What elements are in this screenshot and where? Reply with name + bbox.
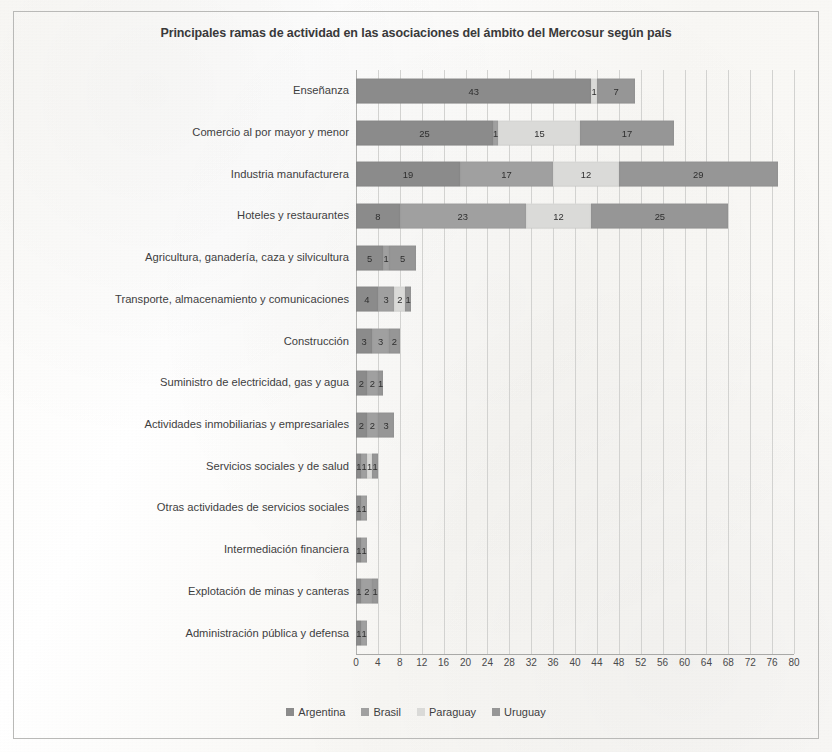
bar-segment[interactable]: 12 — [553, 162, 619, 187]
bar-value-label: 19 — [403, 169, 413, 180]
bar-value-label: 3 — [383, 294, 388, 305]
bar-segment[interactable]: 23 — [400, 203, 526, 228]
bar-segment[interactable]: 15 — [498, 120, 580, 145]
bar-segment[interactable]: 8 — [356, 203, 400, 228]
x-tick-label: 48 — [613, 657, 624, 668]
bar-value-label: 1 — [356, 544, 361, 555]
x-tick-label: 28 — [504, 657, 515, 668]
bar-value-label: 15 — [534, 127, 544, 138]
bar-segment[interactable]: 5 — [356, 245, 383, 270]
x-tick-label: 24 — [482, 657, 493, 668]
bar-value-label: 3 — [378, 336, 383, 347]
bar-segment[interactable]: 3 — [378, 412, 394, 437]
bar-segment[interactable]: 12 — [526, 203, 592, 228]
stacked-bar[interactable]: 515 — [356, 245, 416, 270]
bar-segment[interactable]: 2 — [367, 412, 378, 437]
bar-value-label: 1 — [367, 461, 372, 472]
bar-value-label: 3 — [383, 419, 388, 430]
category-label: Hoteles y restaurantes — [237, 210, 349, 221]
chart-row: Intermediación financiera11 — [356, 529, 794, 571]
bar-segment[interactable]: 19 — [356, 162, 460, 187]
bar-value-label: 2 — [397, 294, 402, 305]
stacked-bar[interactable]: 19171229 — [356, 162, 778, 187]
bar-segment[interactable]: 17 — [580, 120, 673, 145]
stacked-bar[interactable]: 8231225 — [356, 203, 728, 228]
bar-segment[interactable]: 2 — [356, 370, 367, 395]
bar-value-label: 1 — [356, 586, 361, 597]
stacked-bar[interactable]: 121 — [356, 579, 378, 604]
bar-segment[interactable]: 1 — [361, 495, 366, 520]
stacked-bar[interactable]: 221 — [356, 370, 383, 395]
bar-segment[interactable]: 2 — [394, 287, 405, 312]
bar-segment[interactable]: 5 — [389, 245, 416, 270]
chart-row: Servicios sociales y de salud1111 — [356, 445, 794, 487]
stacked-bar[interactable]: 11 — [356, 621, 367, 646]
bar-value-label: 4 — [364, 294, 369, 305]
legend-swatch-icon — [361, 708, 369, 716]
stacked-bar[interactable]: 11 — [356, 537, 367, 562]
x-tick-label: 76 — [767, 657, 778, 668]
legend-item[interactable]: Paraguay — [417, 706, 476, 718]
legend-swatch-icon — [286, 708, 294, 716]
x-tick-label: 60 — [679, 657, 690, 668]
bar-segment[interactable]: 1 — [361, 621, 366, 646]
bar-segment[interactable]: 2 — [367, 370, 378, 395]
stacked-bar[interactable]: 1111 — [356, 454, 378, 479]
legend-item[interactable]: Brasil — [361, 706, 401, 718]
bar-value-label: 1 — [373, 461, 378, 472]
bar-segment[interactable]: 25 — [591, 203, 728, 228]
chart-row: Transporte, almacenamiento y comunicacio… — [356, 279, 794, 321]
bar-segment[interactable]: 2 — [361, 579, 372, 604]
bar-value-label: 25 — [655, 210, 665, 221]
bar-segment[interactable]: 3 — [378, 287, 394, 312]
bar-value-label: 1 — [378, 377, 383, 388]
x-tick-label: 16 — [438, 657, 449, 668]
stacked-bar[interactable]: 11 — [356, 495, 367, 520]
bar-value-label: 12 — [581, 169, 591, 180]
stacked-bar[interactable]: 332 — [356, 329, 400, 354]
bar-segment[interactable]: 1 — [361, 537, 366, 562]
bar-segment[interactable]: 1 — [405, 287, 410, 312]
x-tick-label: 0 — [353, 657, 359, 668]
legend-label: Paraguay — [429, 706, 476, 718]
bar-segment[interactable]: 3 — [372, 329, 388, 354]
bar-segment[interactable]: 3 — [356, 329, 372, 354]
bar-value-label: 3 — [362, 336, 367, 347]
chart-row: Comercio al por mayor y menor2511517 — [356, 112, 794, 154]
stacked-bar[interactable]: 223 — [356, 412, 394, 437]
bar-segment[interactable]: 1 — [378, 370, 383, 395]
bar-segment[interactable]: 43 — [356, 78, 591, 103]
x-tick-label: 80 — [788, 657, 799, 668]
legend-item[interactable]: Argentina — [286, 706, 345, 718]
x-axis-line — [356, 654, 794, 655]
category-label: Administración pública y defensa — [185, 628, 349, 639]
bar-segment[interactable]: 25 — [356, 120, 493, 145]
bar-segment[interactable]: 7 — [597, 78, 635, 103]
chart-row: Otras actividades de servicios sociales1… — [356, 487, 794, 529]
bar-segment[interactable]: 4 — [356, 287, 378, 312]
bar-segment[interactable]: 2 — [356, 412, 367, 437]
chart-row: Actividades inmobiliarias y empresariale… — [356, 404, 794, 446]
x-tick-label: 12 — [416, 657, 427, 668]
bar-value-label: 43 — [468, 85, 478, 96]
x-tick-label: 20 — [460, 657, 471, 668]
bar-segment[interactable]: 2 — [389, 329, 400, 354]
bar-segment[interactable]: 17 — [460, 162, 553, 187]
bar-segment[interactable]: 1 — [372, 579, 377, 604]
bar-segment[interactable]: 29 — [619, 162, 778, 187]
bar-value-label: 29 — [693, 169, 703, 180]
chart-row: Suministro de electricidad, gas y agua22… — [356, 362, 794, 404]
bar-value-label: 25 — [419, 127, 429, 138]
stacked-bar[interactable]: 4317 — [356, 78, 635, 103]
chart-row: Agricultura, ganadería, caza y silvicult… — [356, 237, 794, 279]
bar-segment[interactable]: 1 — [372, 454, 377, 479]
bar-value-label: 5 — [367, 252, 372, 263]
bar-value-label: 2 — [364, 586, 369, 597]
stacked-bar[interactable]: 4321 — [356, 287, 411, 312]
legend-item[interactable]: Uruguay — [492, 706, 546, 718]
chart-title: Principales ramas de actividad en las as… — [0, 26, 832, 40]
x-tick-label: 4 — [375, 657, 381, 668]
stacked-bar[interactable]: 2511517 — [356, 120, 674, 145]
bar-value-label: 1 — [373, 586, 378, 597]
category-label: Otras actividades de servicios sociales — [157, 502, 349, 513]
